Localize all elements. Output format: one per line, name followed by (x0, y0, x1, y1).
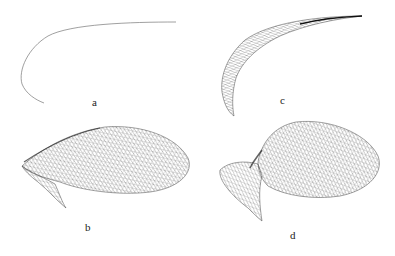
figure: a b c d (0, 0, 395, 256)
panel-c-label: c (280, 94, 285, 106)
panel-c-band (222, 16, 362, 116)
panel-b-label: b (85, 221, 91, 233)
panel-a-label: a (92, 96, 97, 108)
panel-d-label: d (290, 229, 296, 241)
figure-graphics (0, 0, 395, 256)
panel-b-surface (22, 127, 189, 208)
panel-a-curve (21, 22, 176, 103)
panel-d-surface (220, 121, 380, 221)
